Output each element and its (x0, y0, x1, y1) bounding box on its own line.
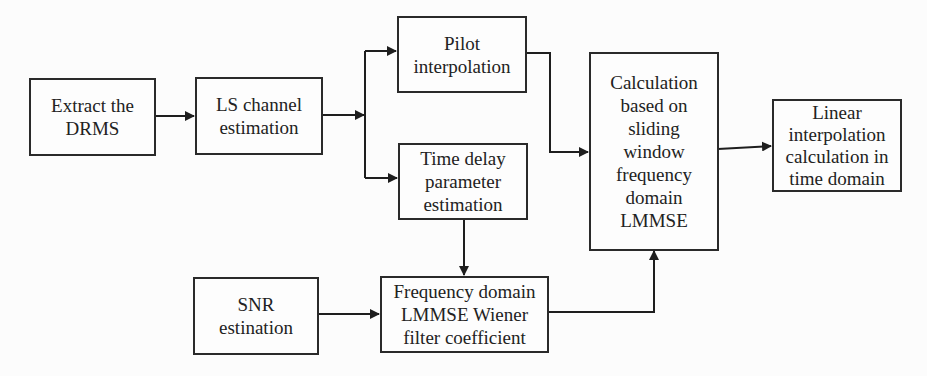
edge-calc-to-linear (718, 146, 771, 149)
flowchart-canvas: Extract the DRMS LS channel estimation P… (0, 0, 927, 376)
node-label: Pilot interpolation (413, 32, 510, 78)
node-sliding-window-lmmse: Calculation based on sliding window freq… (589, 52, 719, 251)
node-time-delay-estimation: Time delay parameter estimation (398, 143, 528, 220)
node-label: Calculation based on sliding window freq… (610, 71, 698, 232)
node-extract-drms: Extract the DRMS (29, 78, 156, 156)
node-label: Frequency domain LMMSE Wiener filter coe… (394, 280, 536, 349)
edge-pilot-to-calc (526, 53, 588, 152)
node-snr-estimation: SNR estination (193, 277, 319, 355)
node-label: SNR estination (219, 293, 293, 339)
node-label: Extract the DRMS (51, 94, 134, 140)
edge-freq-to-calc (548, 251, 654, 312)
node-ls-channel-estimation: LS channel estimation (195, 77, 323, 155)
node-wiener-filter-coefficient: Frequency domain LMMSE Wiener filter coe… (380, 276, 549, 353)
node-linear-interpolation: Linear interpolation calculation in time… (772, 99, 902, 192)
node-pilot-interpolation: Pilot interpolation (397, 16, 527, 93)
node-label: LS channel estimation (216, 93, 302, 139)
node-label: Linear interpolation calculation in time… (786, 102, 889, 190)
node-label: Time delay parameter estimation (420, 147, 505, 216)
